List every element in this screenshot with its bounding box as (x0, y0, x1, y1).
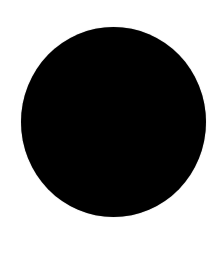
canvas (0, 0, 217, 260)
filled-circle-icon (21, 27, 206, 217)
